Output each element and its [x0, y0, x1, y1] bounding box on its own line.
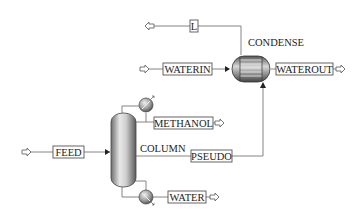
inlet-arrow-icon [140, 65, 149, 73]
outlet-arrow-icon [210, 193, 219, 201]
stream-label-l: L [191, 21, 197, 32]
stream-label-water: WATER [170, 192, 205, 203]
heat-duty-arrow-icon [151, 202, 154, 205]
inlet-arrow-icon [22, 148, 31, 156]
stream-label-methanol: METHANOL [154, 118, 213, 129]
condenser-block[interactable] [232, 56, 270, 82]
stream-label-pseudo: PSEUDO [191, 151, 232, 162]
heat-duty-arrow-icon [151, 96, 154, 99]
flow-arrowhead-icon [225, 66, 230, 72]
stream-feed[interactable]: FEED [22, 146, 110, 158]
block-label-column: COLUMN [140, 143, 186, 154]
flowsheet-canvas: L CONDENSE WATERIN WATEROUT [0, 0, 363, 224]
distillation-column-block[interactable] [111, 113, 136, 187]
stream-label-waterout: WATEROUT [276, 64, 333, 75]
outlet-arrow-icon [145, 22, 154, 30]
flow-arrowhead-icon [105, 149, 110, 155]
stream-methanol[interactable]: METHANOL [146, 117, 224, 129]
stream-water[interactable]: WATER [153, 191, 219, 203]
stream-waterin[interactable]: WATERIN [140, 63, 230, 75]
outlet-arrow-icon [215, 119, 224, 127]
stream-l[interactable]: L [145, 20, 241, 55]
stream-label-feed: FEED [55, 147, 82, 158]
block-label-condense: CONDENSE [248, 37, 304, 48]
stream-label-waterin: WATERIN [164, 64, 210, 75]
outlet-arrow-icon [336, 65, 345, 73]
flow-arrowhead-icon [260, 82, 266, 88]
stream-waterout[interactable]: WATEROUT [271, 63, 345, 75]
